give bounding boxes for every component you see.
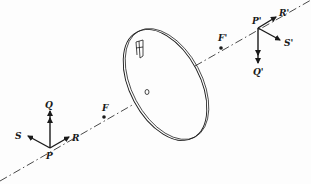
label-p-prime: P' — [251, 16, 262, 26]
focus-f-dot — [102, 115, 106, 119]
label-s-prime: S' — [284, 38, 293, 48]
label-r-prime: R' — [278, 8, 289, 18]
label-f: F — [101, 103, 109, 113]
label-q: Q — [45, 100, 53, 110]
label-r: R — [71, 133, 80, 143]
s-prime-arrow-icon — [258, 28, 280, 40]
diagram-svg: Q S R P F F' P' R' S' Q' — [0, 0, 311, 184]
label-s: S — [15, 131, 22, 141]
s-arrow-icon — [28, 136, 50, 148]
lens-diagram: Q S R P F F' P' R' S' Q' — [0, 0, 311, 184]
lens — [106, 15, 226, 155]
focus-f-prime-dot — [219, 46, 223, 50]
label-f-prime: F' — [217, 33, 227, 43]
aperture-mark-icon — [136, 40, 143, 58]
label-q-prime: Q' — [253, 67, 264, 77]
lens-center-hole-icon — [145, 90, 149, 95]
label-p: P — [45, 151, 53, 161]
object-frame — [28, 111, 69, 148]
